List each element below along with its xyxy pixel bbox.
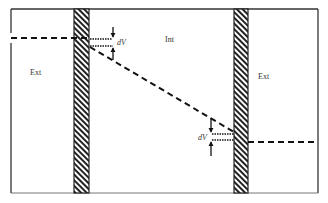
left-ext-label: Ext bbox=[30, 68, 42, 77]
top-dv-label: dV bbox=[117, 38, 127, 47]
bottom-dv-annotation: dV bbox=[198, 118, 234, 156]
left-membrane-wall bbox=[74, 9, 89, 193]
right-ext-label: Ext bbox=[258, 72, 270, 81]
interior-label: Int bbox=[165, 35, 175, 44]
top-dv-annotation: dV bbox=[90, 27, 127, 60]
potential-profile bbox=[11, 38, 317, 142]
membrane-potential-diagram: dV dV Ext Int Ext bbox=[0, 0, 328, 203]
interior-gradient-line bbox=[90, 47, 234, 132]
bottom-dv-label: dV bbox=[198, 133, 208, 142]
right-membrane-wall bbox=[234, 9, 248, 193]
